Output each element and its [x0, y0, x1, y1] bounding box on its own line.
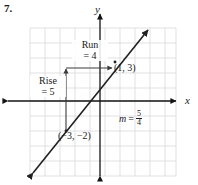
- figure-container: 7.: [0, 0, 198, 185]
- slope-equals: =: [128, 114, 134, 124]
- x-axis-label: x: [185, 95, 190, 106]
- y-axis-label: y: [95, 4, 100, 15]
- point-label-second: (−3, −2): [58, 131, 91, 141]
- rise-annotation-label: Rise: [31, 76, 65, 87]
- slope-fraction: 5 4: [136, 110, 142, 128]
- run-annotation-label: Run: [73, 40, 107, 51]
- run-annotation: Run = 4: [72, 40, 108, 61]
- slope-numerator: 5: [136, 110, 142, 118]
- slope-denominator: 4: [136, 119, 142, 127]
- rise-annotation-value: = 5: [31, 87, 65, 98]
- run-annotation-value: = 4: [73, 51, 107, 62]
- point-label-first: (1, 3): [114, 63, 136, 73]
- slope-equation: m = 5 4: [119, 110, 142, 128]
- slope-variable: m: [119, 114, 126, 124]
- rise-annotation: Rise = 5: [30, 76, 66, 97]
